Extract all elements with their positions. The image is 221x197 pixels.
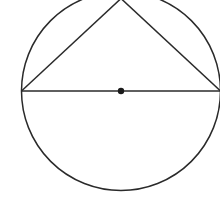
circle bbox=[22, 0, 221, 191]
triangle-left-side bbox=[22, 0, 122, 91]
center-point bbox=[118, 88, 124, 94]
geometry-diagram bbox=[0, 0, 220, 197]
triangle-right-side bbox=[121, 0, 220, 91]
